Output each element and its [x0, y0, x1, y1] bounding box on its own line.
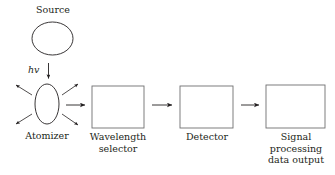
scatter-arrow-upper-right: [62, 84, 78, 95]
signal-processing-label-line2: processing: [270, 143, 322, 154]
scatter-arrow-lower-right: [62, 114, 78, 125]
scatter-arrow-lower-left: [16, 114, 32, 124]
wavelength-selector-label-line1: Wavelength: [90, 131, 146, 142]
atomizer-ellipse: [35, 84, 59, 124]
signal-processing-label: Signal processing data output: [262, 131, 330, 166]
detector-label: Detector: [176, 131, 238, 143]
photon-energy-label: hv: [28, 64, 40, 75]
diagram-canvas: Source hv Atomizer Wavelength selector D…: [0, 0, 335, 175]
wavelength-selector-box: [92, 86, 144, 128]
signal-processing-label-line1: Signal: [281, 131, 311, 142]
signal-processing-box: [266, 85, 325, 128]
signal-processing-label-line3: data output: [268, 154, 324, 165]
detector-box: [180, 86, 233, 128]
source-label: Source: [26, 4, 80, 16]
source-circle: [32, 22, 73, 55]
atomizer-label: Atomizer: [12, 130, 82, 142]
wavelength-selector-label: Wavelength selector: [86, 131, 150, 154]
wavelength-selector-label-line2: selector: [99, 143, 138, 154]
scatter-arrow-upper-left: [16, 85, 32, 95]
